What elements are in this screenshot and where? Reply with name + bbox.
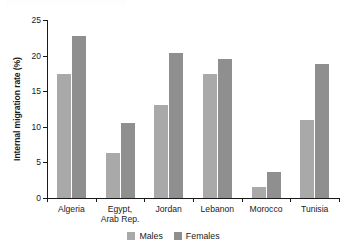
legend-item-females[interactable]: Females xyxy=(174,232,220,241)
category-label: Egypt, Arab Rep. xyxy=(101,204,140,224)
category-label: Jordan xyxy=(156,204,182,214)
category-label: Algeria xyxy=(58,204,85,214)
chart-legend: MalesFemales xyxy=(0,232,347,241)
bar-males-5 xyxy=(300,120,314,198)
legend-label: Females xyxy=(186,232,220,241)
x-tick-mark xyxy=(96,198,97,202)
x-tick-mark xyxy=(193,198,194,202)
x-tick-mark xyxy=(242,198,243,202)
y-tick-mark xyxy=(43,127,47,128)
plot-area: 0510152025 xyxy=(47,20,339,198)
y-tick-label: 0 xyxy=(36,194,41,203)
legend-swatch-icon xyxy=(174,232,182,240)
x-tick-mark xyxy=(290,198,291,202)
bar-males-4 xyxy=(252,187,266,198)
y-tick-label: 15 xyxy=(32,87,41,96)
y-axis-title: Internal migration rate (%) xyxy=(11,20,23,198)
bar-females-4 xyxy=(267,172,281,198)
bar-males-3 xyxy=(203,74,217,198)
category-label: Lebanon xyxy=(201,204,234,214)
category-label: Morocco xyxy=(250,204,283,214)
legend-item-males[interactable]: Males xyxy=(127,232,162,241)
legend-swatch-icon xyxy=(127,232,135,240)
bar-females-1 xyxy=(121,123,135,198)
bar-males-2 xyxy=(154,105,168,198)
x-tick-mark xyxy=(47,198,48,202)
x-tick-mark xyxy=(339,198,340,202)
cropped-title-remnant xyxy=(6,0,126,5)
y-tick-label: 5 xyxy=(36,158,41,167)
x-tick-mark xyxy=(144,198,145,202)
bar-females-5 xyxy=(315,64,329,198)
y-tick-label: 10 xyxy=(32,123,41,132)
category-label: Tunisia xyxy=(301,204,328,214)
bar-females-3 xyxy=(218,59,232,198)
y-tick-mark xyxy=(43,20,47,21)
y-tick-mark xyxy=(43,162,47,163)
bar-females-2 xyxy=(169,53,183,198)
y-tick-label: 20 xyxy=(32,51,41,60)
chart-figure: Internal migration rate (%) 0510152025 A… xyxy=(0,0,347,251)
y-tick-mark xyxy=(43,91,47,92)
bar-females-0 xyxy=(72,36,86,198)
y-tick-label: 25 xyxy=(32,16,41,25)
y-tick-mark xyxy=(43,56,47,57)
legend-label: Males xyxy=(139,232,162,241)
bar-males-0 xyxy=(57,74,71,198)
bar-males-1 xyxy=(106,153,120,198)
